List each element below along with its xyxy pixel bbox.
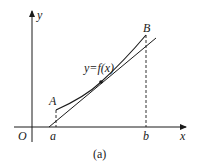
tick-label-a: a bbox=[50, 129, 56, 143]
x-axis-label: x bbox=[179, 129, 186, 143]
point-label-a: A bbox=[48, 94, 57, 108]
y-axis-label: y bbox=[36, 8, 43, 22]
tangent-point bbox=[99, 80, 103, 84]
function-label: y=f(x) bbox=[83, 61, 114, 75]
tick-label-b: b bbox=[143, 129, 149, 143]
figure-caption: (a) bbox=[93, 147, 106, 161]
mean-value-diagram: y x O a b A B y=f(x) (a) bbox=[0, 0, 204, 165]
origin-label: O bbox=[18, 129, 27, 143]
point-label-b: B bbox=[143, 21, 151, 35]
